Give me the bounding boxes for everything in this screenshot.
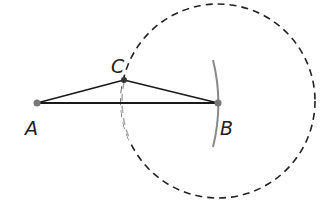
segment-CB: [124, 80, 218, 103]
label-B: B: [220, 117, 233, 139]
label-A: A: [23, 117, 38, 139]
point-A: [34, 100, 41, 107]
point-B: [215, 100, 222, 107]
segment-AC: [37, 80, 124, 103]
geometry-diagram: A B C: [0, 0, 333, 200]
label-C: C: [111, 55, 125, 77]
point-C: [121, 77, 127, 83]
